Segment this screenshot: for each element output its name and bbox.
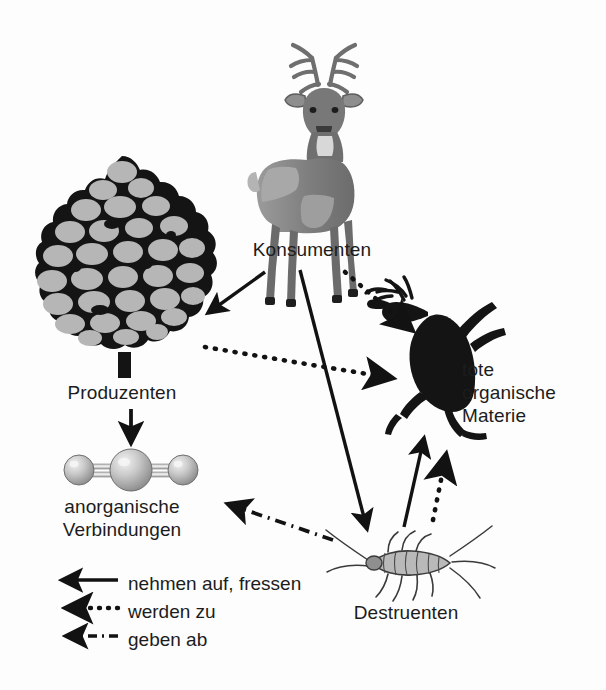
tree-illustration	[35, 156, 217, 378]
label-produzenten: Produzenten	[42, 381, 202, 404]
legend-label-werden-zu: werden zu	[128, 601, 216, 623]
diagram-canvas	[0, 0, 606, 690]
legend-samples	[62, 580, 118, 636]
edge-konsumenten-to-destruenten	[300, 270, 367, 529]
ecosystem-cycle-diagram: Konsumenten Produzenten anorganische Ver…	[0, 0, 606, 690]
edge-destruenten-to-tote	[404, 438, 424, 527]
label-anorganische-verbindungen: anorganische Verbindungen	[22, 495, 222, 541]
label-tote-organische-materie: tote organische Materie	[462, 358, 598, 427]
silverfish-illustration	[326, 526, 495, 601]
molecule-illustration	[64, 449, 198, 491]
legend-label-nehmen-auf-fressen: nehmen auf, fressen	[128, 573, 301, 595]
edge-produzenten-to-tote	[205, 347, 392, 378]
edge-konsumenten-to-produzenten	[208, 272, 265, 313]
deer-illustration	[247, 45, 363, 307]
legend-label-geben-ab: geben ab	[128, 629, 207, 651]
edge-destruenten-to-tote-dotted	[433, 455, 446, 520]
label-destruenten: Destruenten	[326, 601, 486, 624]
edge-destruenten-to-anorganische	[228, 504, 333, 540]
label-konsumenten: Konsumenten	[232, 238, 392, 261]
